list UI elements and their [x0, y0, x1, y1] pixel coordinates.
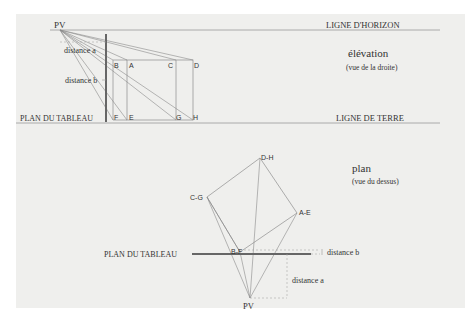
- svg-text:B-F: B-F: [231, 248, 242, 255]
- plan-sight-lines: [207, 158, 297, 298]
- plan-subtitle: (vue du dessus): [352, 177, 399, 186]
- svg-text:A-E: A-E: [299, 209, 311, 216]
- svg-text:G: G: [176, 114, 181, 121]
- svg-text:B: B: [114, 62, 119, 69]
- elevation-subtitle: (vue de la droite): [346, 63, 398, 72]
- svg-text:C-G: C-G: [190, 194, 203, 201]
- perspective-diagram: PV distance a distance b PLAN DU TABLEAU…: [0, 0, 476, 323]
- plan-pv-label: PV: [243, 301, 255, 311]
- plan-title: plan: [352, 162, 371, 174]
- ground-label: LIGNE DE TERRE: [336, 113, 404, 123]
- svg-text:C: C: [168, 62, 173, 69]
- elevation-title: élévation: [348, 47, 389, 59]
- svg-text:A: A: [129, 62, 134, 69]
- plan-point-labels: D-H C-G A-E B-F: [190, 154, 311, 255]
- svg-text:H: H: [193, 114, 198, 121]
- svg-text:D-H: D-H: [261, 154, 273, 161]
- elevation-distance-a: distance a: [64, 46, 96, 55]
- svg-text:F: F: [114, 114, 118, 121]
- elevation-sight-lines: [60, 30, 193, 120]
- svg-text:D: D: [194, 62, 199, 69]
- plan-picture-plane-label: PLAN DU TABLEAU: [104, 250, 177, 259]
- elevation-distance-b: distance b: [65, 76, 97, 85]
- elevation-picture-plane-label: PLAN DU TABLEAU: [20, 114, 93, 123]
- horizon-label: LIGNE D'HORIZON: [326, 20, 400, 30]
- svg-text:E: E: [129, 114, 134, 121]
- elevation-pv-label: PV: [54, 20, 66, 30]
- plan-distance-b: distance b: [327, 248, 359, 257]
- plan-distance-a: distance a: [292, 276, 324, 285]
